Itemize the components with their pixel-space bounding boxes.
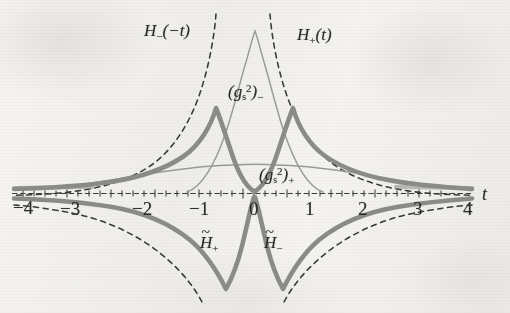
label-gs2-minus: (gs2)− xyxy=(228,83,263,103)
curve-lower-dashed-envelope-left xyxy=(14,205,202,302)
tick-label-minus-1: −1 xyxy=(189,199,209,218)
plot-svg xyxy=(0,0,510,313)
tick-label-0: 0 xyxy=(249,199,259,218)
label-h-tilde-minus: ~H− xyxy=(264,234,283,254)
tick-label-minus-4: −4 xyxy=(13,198,33,217)
curve-lower-dashed-envelope-right xyxy=(284,205,472,302)
label-gs2-plus: (gs2)+ xyxy=(259,166,294,186)
label-h-plus-of-t: H+(t) xyxy=(297,26,332,46)
tick-label-2: 2 xyxy=(358,199,368,218)
tick-label-minus-2: −2 xyxy=(132,199,152,218)
x-axis-label: t xyxy=(482,185,487,203)
curve-gs2-minus xyxy=(14,108,472,192)
label-h-tilde-plus: ~H+ xyxy=(200,234,219,254)
tick-label-1: 1 xyxy=(305,199,315,218)
axis-tail-smear xyxy=(14,187,472,188)
tick-label-4: 4 xyxy=(463,199,473,218)
label-h-minus-of-minus-t: H−(−t) xyxy=(144,22,190,42)
figure-canvas: H−(−t) H+(t) (gs2)− (gs2)+ ~H+ ~H− t −4 … xyxy=(0,0,510,313)
curve-central-narrow-peak xyxy=(187,31,323,192)
tick-label-minus-3: −3 xyxy=(60,199,80,218)
tick-label-3: 3 xyxy=(413,199,423,218)
